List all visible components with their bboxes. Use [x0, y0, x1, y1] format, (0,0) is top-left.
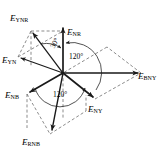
phasor-diagram-figure: EYNR EYN ENR EBNY ENY ENB ERNB 30° 120° … [0, 0, 164, 152]
phase-vectors-group [30, 28, 93, 97]
label-e-ynr: EYNR [10, 8, 28, 24]
dash-nb-to-rnb [27, 94, 50, 134]
label-e-nb: ENB [5, 85, 19, 101]
label-e-bny: EBNY [138, 66, 156, 82]
label-e-ny: ENY [88, 99, 102, 115]
label-e-rnb: ERNB [22, 132, 40, 148]
dash-bny-to-upper [107, 47, 141, 73]
arc-120-upper [66, 42, 102, 90]
label-e-yn: EYN [2, 50, 16, 66]
vector-e-ny [63, 73, 93, 97]
vector-e-rnb [52, 73, 63, 130]
construction-lines-group [18, 31, 141, 134]
angle-label-120-lower: 120° [53, 91, 67, 99]
dash-ny-to-bny [95, 73, 141, 99]
line-voltage-vectors-group [21, 33, 138, 130]
angle-label-120-upper: 120° [69, 53, 83, 61]
label-e-nr: ENR [67, 22, 81, 38]
